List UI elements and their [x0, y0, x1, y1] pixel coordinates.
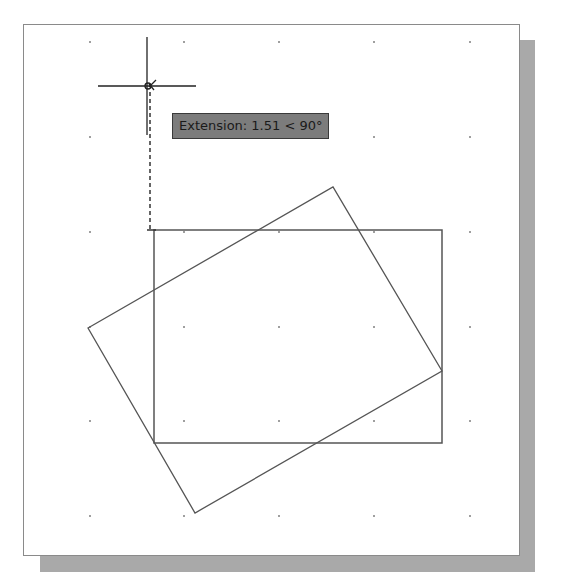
- grid-dot: [89, 515, 91, 517]
- grid-dot: [89, 136, 91, 138]
- grid-dot: [469, 136, 471, 138]
- grid-dot: [469, 420, 471, 422]
- grid-dot: [373, 136, 375, 138]
- grid-dot: [278, 515, 280, 517]
- extension-tooltip: Extension: 1.51 < 90°: [172, 113, 329, 139]
- grid-dot: [373, 326, 375, 328]
- rotated-rectangle[interactable]: [88, 187, 442, 513]
- grid-dot: [183, 41, 185, 43]
- grid-dot: [278, 41, 280, 43]
- grid-dot: [373, 231, 375, 233]
- grid-dot: [183, 420, 185, 422]
- grid-dot: [373, 41, 375, 43]
- grid-dot: [183, 231, 185, 233]
- grid-dot: [278, 231, 280, 233]
- grid-dot: [469, 326, 471, 328]
- grid-dot: [469, 231, 471, 233]
- grid-dot: [89, 41, 91, 43]
- grid-dot: [373, 515, 375, 517]
- extension-tooltip-text: Extension: 1.51 < 90°: [179, 118, 322, 133]
- rectangle[interactable]: [154, 230, 442, 443]
- grid-dot: [278, 326, 280, 328]
- grid-dot: [89, 420, 91, 422]
- grid-dot: [183, 326, 185, 328]
- drawing-canvas[interactable]: [0, 0, 561, 586]
- grid-dot: [469, 41, 471, 43]
- grid-dot: [469, 515, 471, 517]
- grid-dot: [373, 420, 375, 422]
- grid-dot: [89, 231, 91, 233]
- grid-dot: [183, 515, 185, 517]
- grid-dot: [278, 420, 280, 422]
